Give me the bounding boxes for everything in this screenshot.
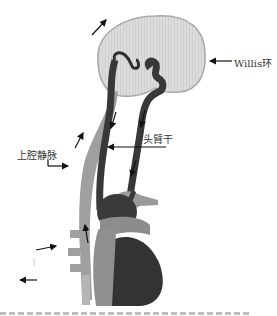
label-willis: Willis环 xyxy=(234,55,272,70)
label-brachiocephalic: 头臂干 xyxy=(143,131,173,146)
arrow-in xyxy=(36,246,56,250)
figure-caption-cropped xyxy=(0,307,277,316)
arrow-jugular-up xyxy=(75,133,83,148)
arrow-scalp xyxy=(92,20,106,35)
label-svc: 上腔静脉 xyxy=(17,147,57,162)
